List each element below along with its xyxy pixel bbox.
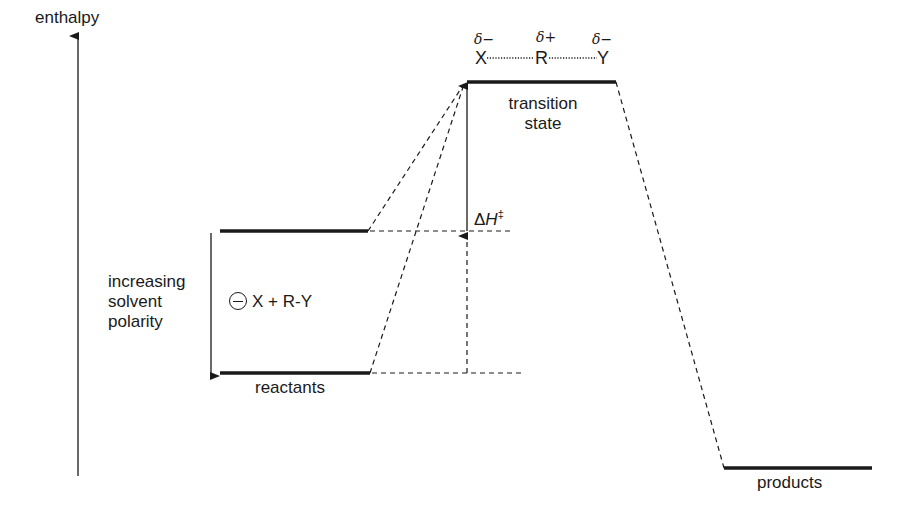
- connector-ts-to-products: [616, 82, 724, 468]
- atom-r: R: [535, 49, 548, 67]
- double-dagger: ‡: [498, 208, 504, 220]
- reactant-species: X + R-Y: [229, 292, 312, 312]
- solvent-label-line2: solvent: [108, 292, 162, 312]
- transition-state-label-line2: state: [488, 114, 598, 134]
- enthalpy-symbol: H: [485, 210, 497, 229]
- delta-symbol: Δ: [474, 210, 485, 229]
- reactant-formula: X + R-Y: [252, 292, 312, 311]
- charge-r: δ+: [536, 30, 556, 44]
- negative-charge-icon: [229, 292, 247, 310]
- atom-y: Y: [597, 49, 609, 67]
- solvent-label-line3: polarity: [108, 312, 163, 332]
- charge-x: δ−: [474, 32, 494, 46]
- reactants-label: reactants: [255, 378, 325, 398]
- activation-enthalpy-label: ΔH‡: [474, 204, 504, 230]
- connector-lower-to-ts: [370, 84, 464, 373]
- transition-state-label-line1: transition: [488, 94, 598, 114]
- enthalpy-axis-label: enthalpy: [35, 8, 99, 28]
- products-label: products: [757, 473, 822, 493]
- atom-x: X: [475, 49, 487, 67]
- energy-diagram-canvas: [0, 0, 906, 517]
- solvent-label-line1: increasing: [108, 272, 186, 292]
- connector-upper-to-ts: [368, 84, 464, 231]
- charge-y: δ−: [592, 32, 612, 46]
